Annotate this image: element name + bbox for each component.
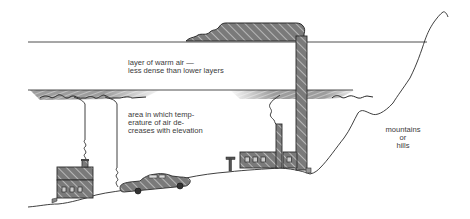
house-window [70, 187, 74, 192]
short-smokestack [276, 124, 282, 168]
tall-smokestack [296, 36, 307, 170]
car [120, 174, 190, 194]
trapped-smog-left [30, 89, 165, 101]
factory-window [253, 157, 258, 162]
car-exhaust [105, 97, 118, 187]
trapped-smog-right [228, 89, 358, 101]
warm-layer-label: layer of warm air — less dense than lowe… [128, 59, 224, 75]
house-window [62, 187, 66, 192]
cool-area-label-line3: creases with elevation [128, 126, 203, 135]
mountains-label-line3: hills [396, 141, 409, 150]
car-wheel [177, 183, 183, 189]
factory-window [245, 157, 250, 162]
factory-window [261, 157, 266, 162]
house [52, 159, 93, 203]
mountains-label: mountains or hills [372, 126, 434, 151]
temperature-inversion-diagram [0, 0, 470, 219]
house-window [78, 187, 82, 192]
warm-layer-label-line2: less dense than lower layers [128, 66, 224, 75]
smoke-plume [186, 23, 305, 41]
cool-area-label: area in which temp- erature of air de- c… [128, 111, 203, 136]
car-wheel [135, 188, 141, 194]
factory-window [287, 157, 292, 162]
house-smoke [74, 97, 86, 162]
